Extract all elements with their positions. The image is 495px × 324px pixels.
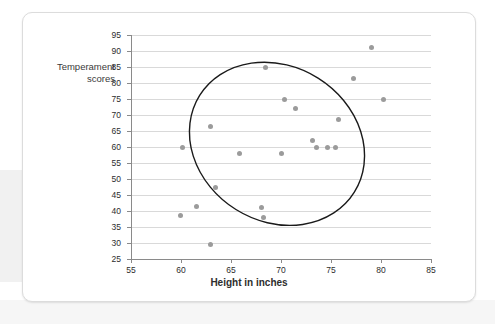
- data-point: [208, 124, 213, 129]
- y-tick-label: 45: [95, 190, 121, 200]
- data-point: [178, 213, 183, 218]
- x-tick-label: 65: [216, 265, 246, 275]
- x-tick-label: 85: [416, 265, 446, 275]
- y-tick-label: 85: [95, 62, 121, 72]
- data-point: [259, 205, 264, 210]
- x-axis-title: Height in inches: [23, 277, 475, 288]
- y-tick-label: 75: [95, 94, 121, 104]
- y-tick-label: 40: [95, 206, 121, 216]
- chart-card: Temperament scores Height in inches 2530…: [22, 12, 476, 302]
- data-point: [310, 138, 315, 143]
- data-point: [333, 145, 338, 150]
- y-tick-label: 90: [95, 46, 121, 56]
- y-tick-label: 70: [95, 110, 121, 120]
- x-axis-line: [131, 259, 431, 260]
- data-point: [263, 65, 268, 70]
- x-tick-label: 55: [116, 265, 146, 275]
- y-tick-label: 95: [95, 30, 121, 40]
- data-point: [279, 151, 284, 156]
- oval-shape: [159, 30, 396, 258]
- data-point: [314, 145, 319, 150]
- plot-area: [131, 35, 431, 259]
- page-background-band-bottom: [0, 300, 495, 324]
- x-tick-label: 80: [366, 265, 396, 275]
- x-tick-label: 70: [266, 265, 296, 275]
- y-tick-label: 25: [95, 254, 121, 264]
- data-point: [325, 145, 330, 150]
- data-point: [381, 97, 386, 102]
- data-point: [293, 106, 298, 111]
- y-tick-label: 35: [95, 222, 121, 232]
- y-tick-label: 50: [95, 174, 121, 184]
- y-tick-label: 55: [95, 158, 121, 168]
- correlation-oval: [131, 35, 431, 259]
- data-point: [261, 215, 266, 220]
- data-point: [336, 117, 341, 122]
- page-background-band-left: [0, 170, 24, 282]
- y-tick-label: 65: [95, 126, 121, 136]
- data-point: [208, 242, 213, 247]
- y-tick-label: 80: [95, 78, 121, 88]
- data-point: [237, 151, 242, 156]
- data-point: [369, 45, 374, 50]
- data-point: [282, 97, 287, 102]
- x-tick-label: 60: [166, 265, 196, 275]
- data-point: [180, 145, 185, 150]
- data-point: [213, 185, 218, 190]
- page-root: Temperament scores Height in inches 2530…: [0, 0, 495, 324]
- x-tick-mark: [431, 259, 432, 263]
- y-tick-label: 30: [95, 238, 121, 248]
- y-tick-label: 60: [95, 142, 121, 152]
- scatter-chart: Temperament scores Height in inches 2530…: [23, 13, 475, 301]
- x-tick-label: 75: [316, 265, 346, 275]
- data-point: [194, 204, 199, 209]
- data-point: [351, 76, 356, 81]
